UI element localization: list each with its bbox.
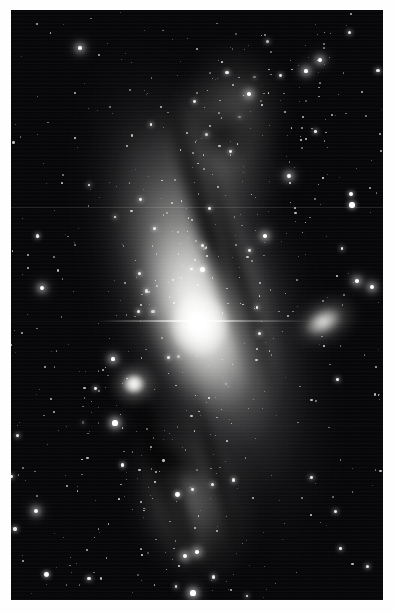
star: [154, 389, 155, 390]
star: [145, 289, 148, 292]
screenshot-root: [0, 0, 395, 613]
star: [134, 316, 136, 318]
star: [253, 76, 255, 78]
star: [37, 96, 38, 97]
dust-lane-4: [148, 410, 213, 599]
star: [84, 397, 85, 398]
star: [166, 569, 168, 571]
star: [22, 560, 24, 562]
star: [66, 584, 67, 585]
star: [84, 83, 85, 84]
star: [44, 366, 46, 368]
star: [270, 51, 272, 53]
star: [140, 304, 142, 306]
star: [150, 123, 153, 126]
star: [140, 501, 142, 503]
star: [225, 195, 226, 196]
star: [275, 583, 276, 584]
star: [171, 202, 173, 204]
star: [294, 212, 296, 214]
star: [260, 100, 262, 102]
star: [71, 572, 72, 573]
star: [315, 400, 316, 401]
star: [27, 314, 28, 315]
star: [66, 485, 68, 487]
star: [125, 53, 126, 54]
star: [315, 483, 316, 484]
star: [124, 282, 126, 284]
star: [218, 145, 220, 147]
star: [351, 563, 353, 565]
star: [378, 349, 379, 350]
star: [51, 351, 52, 352]
star: [141, 549, 142, 550]
star: [305, 100, 306, 101]
star: [200, 415, 201, 416]
bright-star: [34, 509, 39, 514]
star: [141, 554, 143, 556]
star: [295, 221, 296, 222]
star: [151, 77, 152, 78]
m31-core: [171, 294, 227, 356]
scan-seam-lower: [11, 425, 383, 426]
star: [341, 247, 344, 250]
star: [152, 245, 153, 246]
scan-seam-upper: [11, 207, 383, 208]
star: [222, 312, 223, 313]
star: [301, 127, 303, 129]
star: [226, 288, 227, 289]
star: [206, 402, 207, 403]
star: [238, 116, 241, 119]
star: [97, 110, 98, 111]
star: [262, 135, 263, 136]
star: [285, 293, 286, 294]
star: [216, 473, 217, 474]
star: [200, 510, 201, 511]
star: [203, 247, 206, 250]
star: [31, 593, 32, 594]
star: [326, 525, 327, 526]
star: [300, 136, 301, 137]
star: [248, 249, 251, 252]
star: [196, 356, 197, 357]
star: [17, 425, 18, 426]
star: [90, 18, 91, 19]
star: [180, 243, 181, 244]
star: [329, 364, 331, 366]
star: [266, 40, 269, 43]
star: [216, 530, 218, 532]
star: [235, 235, 236, 236]
star: [309, 478, 310, 479]
star: [186, 132, 188, 134]
star: [212, 78, 213, 79]
star: [218, 256, 219, 257]
star: [340, 459, 341, 460]
star: [78, 228, 79, 229]
star: [298, 65, 299, 66]
star: [131, 134, 133, 136]
star: [263, 597, 264, 598]
star: [188, 217, 190, 219]
star: [171, 297, 172, 298]
m110-core: [300, 302, 347, 342]
star: [345, 113, 346, 114]
star: [98, 370, 99, 371]
star: [187, 231, 188, 232]
star: [102, 369, 104, 371]
star: [211, 580, 212, 581]
star: [146, 94, 147, 95]
star: [379, 394, 380, 395]
star: [204, 107, 205, 108]
star: [197, 319, 199, 321]
star: [94, 387, 97, 390]
star: [329, 57, 330, 58]
star: [369, 187, 371, 189]
star: [122, 244, 123, 245]
star: [342, 304, 343, 305]
star: [271, 475, 272, 476]
star: [349, 192, 353, 196]
star: [148, 176, 149, 177]
star: [180, 149, 181, 150]
star: [375, 366, 377, 368]
star: [285, 377, 286, 378]
